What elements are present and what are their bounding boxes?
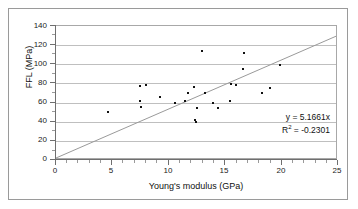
x-axis-title: Young's modulus (GPa) — [55, 181, 337, 191]
data-point — [204, 92, 206, 94]
x-tick-0 — [55, 160, 56, 165]
trendline — [56, 26, 338, 160]
data-point — [279, 64, 281, 66]
x-tick-label-20: 20 — [271, 167, 291, 175]
x-minor-tick — [270, 160, 271, 163]
x-minor-tick — [326, 160, 327, 163]
data-point — [217, 107, 219, 109]
x-minor-tick — [134, 160, 135, 163]
data-point — [229, 100, 231, 102]
plot-area: y = 5.1661x R2 = -0.2301 — [55, 25, 337, 159]
y-tick-label-60: 60 — [38, 98, 47, 106]
x-tick-label-15: 15 — [214, 167, 234, 175]
data-point — [107, 111, 109, 113]
x-minor-tick — [190, 160, 191, 163]
y-tick-label-40: 40 — [38, 117, 47, 125]
data-point — [235, 84, 237, 86]
chart-figure: FFL (MPa) 140 120 100 80 60 40 20 0 — [0, 0, 358, 209]
x-tick-label-25: 25 — [327, 167, 347, 175]
x-minor-tick — [303, 160, 304, 163]
data-point — [187, 92, 189, 94]
x-minor-tick — [258, 160, 259, 163]
x-axis-line — [55, 159, 337, 160]
x-tick-15 — [224, 160, 225, 165]
y-tick-label-120: 120 — [34, 41, 47, 49]
data-point — [196, 107, 198, 109]
x-minor-tick — [236, 160, 237, 163]
y-axis-title: FFL (MPa) — [24, 22, 34, 112]
x-tick-label-5: 5 — [101, 167, 121, 175]
x-minor-tick — [100, 160, 101, 163]
x-minor-tick — [315, 160, 316, 163]
x-minor-tick — [89, 160, 90, 163]
x-tick-label-10: 10 — [158, 167, 178, 175]
r-squared-text: R2 = -0.2301 — [282, 124, 330, 137]
data-point — [159, 96, 161, 98]
data-point — [212, 102, 214, 104]
y-tick-label-0: 0 — [43, 155, 47, 163]
data-point — [184, 100, 186, 102]
x-minor-tick — [213, 160, 214, 163]
data-point — [145, 84, 147, 86]
data-point — [230, 83, 232, 85]
y-tick-label-140: 140 — [34, 22, 47, 30]
x-minor-tick — [77, 160, 78, 163]
y-axis-line — [55, 25, 56, 160]
x-minor-tick — [202, 160, 203, 163]
data-point — [269, 87, 271, 89]
x-minor-tick — [122, 160, 123, 163]
trendline-annotation: y = 5.1661x R2 = -0.2301 — [282, 111, 330, 137]
data-point — [174, 102, 176, 104]
data-point — [139, 100, 141, 102]
y-tick-label-100: 100 — [34, 60, 47, 68]
data-point — [242, 68, 244, 70]
data-point — [201, 50, 203, 52]
data-point — [195, 121, 197, 123]
x-tick-5 — [111, 160, 112, 165]
x-tick-10 — [168, 160, 169, 165]
x-minor-tick — [247, 160, 248, 163]
trendline-equation: y = 5.1661x — [282, 111, 330, 124]
data-point — [261, 92, 263, 94]
x-minor-tick — [66, 160, 67, 163]
data-point — [243, 52, 245, 54]
x-tick-20 — [281, 160, 282, 165]
x-minor-tick — [179, 160, 180, 163]
x-minor-tick — [292, 160, 293, 163]
data-point — [140, 106, 142, 108]
x-tick-label-0: 0 — [45, 167, 65, 175]
x-tick-25 — [337, 160, 338, 165]
data-point — [193, 86, 195, 88]
data-point — [139, 85, 141, 87]
x-minor-tick — [156, 160, 157, 163]
y-tick-label-80: 80 — [38, 79, 47, 87]
y-tick-label-20: 20 — [38, 136, 47, 144]
r-squared-value: = -0.2301 — [291, 125, 330, 135]
x-minor-tick — [145, 160, 146, 163]
